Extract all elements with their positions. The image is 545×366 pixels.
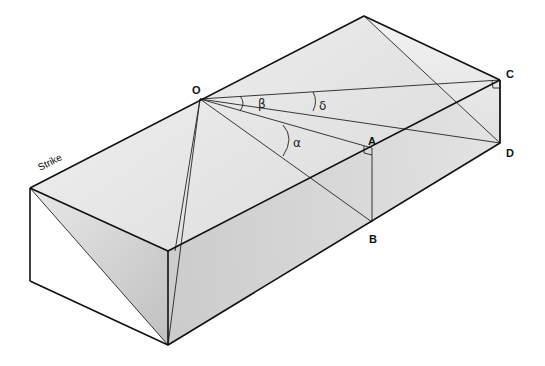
point-label-o: O	[192, 84, 201, 96]
strike-label: Strike	[36, 151, 64, 173]
point-label-c: C	[506, 68, 514, 80]
dip-geometry-figure: O A B C D β δ α Strike	[0, 0, 545, 366]
point-label-b: B	[369, 233, 377, 245]
angle-label-beta: β	[258, 97, 266, 111]
point-label-d: D	[506, 147, 514, 159]
angle-label-alpha: α	[293, 136, 301, 150]
angle-label-delta: δ	[319, 99, 326, 113]
block-diagram: O A B C D β δ α Strike	[0, 0, 545, 366]
point-label-a: A	[368, 135, 376, 147]
